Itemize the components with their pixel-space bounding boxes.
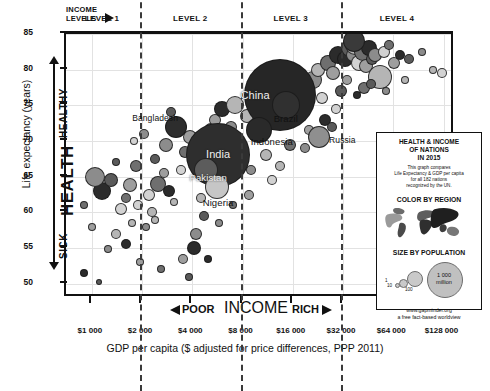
income-level-divider	[140, 0, 142, 391]
legend-bubble-1	[395, 283, 400, 288]
data-bubble	[300, 143, 310, 153]
country-label-china: China	[240, 89, 269, 101]
country-label-nigeria: Nigeria	[203, 197, 234, 208]
legend-color-heading: COLOR BY REGION	[377, 196, 481, 203]
data-bubble	[104, 245, 112, 253]
gridline-vertical	[343, 34, 344, 294]
data-bubble	[170, 198, 178, 206]
data-bubble	[215, 219, 223, 227]
data-bubble	[112, 158, 120, 166]
data-bubble	[163, 185, 175, 197]
legend-size-label-1000-b: million	[431, 279, 457, 285]
data-bubble-russia	[308, 126, 330, 148]
chart-legend: HEALTH & INCOME OF NATIONS IN 2015 This …	[376, 132, 482, 310]
y-tick	[60, 102, 67, 104]
health-axis-bar	[53, 64, 55, 262]
income-levels-line1: INCOME	[66, 5, 97, 14]
legend-size-label-100: 100	[405, 287, 413, 292]
y-tick	[60, 174, 67, 176]
data-bubble	[395, 50, 405, 60]
data-bubble	[159, 138, 173, 152]
data-bubble	[85, 167, 105, 187]
healthy-label: HEALTHY	[58, 88, 69, 138]
country-label-bangladesh: Bangladesh	[132, 113, 178, 123]
poor-arrow-icon	[170, 305, 180, 315]
data-bubble	[128, 219, 136, 227]
legend-tagline: a free fact-based worldview	[377, 314, 481, 321]
data-bubble	[326, 66, 340, 80]
data-bubble	[123, 178, 137, 192]
legend-desc-4: recognized by the UN.	[377, 183, 481, 189]
legend-title-2: OF NATIONS	[377, 146, 481, 154]
data-bubble	[437, 68, 447, 78]
y-tick-label: 80	[7, 63, 33, 73]
y-tick-label: 50	[7, 277, 33, 287]
data-bubble	[267, 175, 277, 185]
gridline-vertical	[92, 34, 93, 294]
x-tick	[89, 296, 91, 303]
data-bubble	[176, 165, 186, 175]
y-tick-label: 55	[7, 241, 33, 251]
income-level-label: LEVEL 4	[362, 14, 432, 23]
data-bubble	[142, 223, 150, 231]
data-bubble	[111, 229, 121, 239]
rich-label: RICH	[292, 303, 319, 315]
income-level-divider	[241, 0, 243, 391]
country-label-india: India	[206, 148, 230, 160]
x-tick	[189, 296, 191, 303]
data-bubble	[157, 265, 165, 273]
data-bubble	[366, 79, 376, 89]
data-bubble	[316, 92, 328, 104]
legend-title-3: IN 2015	[377, 154, 481, 162]
data-bubble	[115, 203, 127, 215]
data-bubble	[204, 255, 212, 263]
country-label-pakistan: Pakistan	[190, 172, 227, 183]
data-bubble	[190, 228, 202, 240]
data-bubble	[404, 54, 414, 64]
country-label-brazil: Brazil	[274, 113, 298, 124]
legend-size-heading: SIZE BY POPULATION	[377, 249, 481, 256]
y-tick-label: 75	[7, 98, 33, 108]
data-bubble	[418, 48, 426, 56]
income-level-divider	[341, 0, 343, 391]
data-bubble-japan	[343, 32, 365, 52]
x-axis-title: GDP per capita ($ adjusted for price dif…	[0, 342, 490, 354]
y-tick-label: 85	[7, 27, 33, 37]
data-bubble	[88, 223, 96, 231]
y-tick-label: 60	[7, 205, 33, 215]
legend-size-scale: 1 10 100 1 000 million	[377, 259, 481, 305]
x-tick	[290, 296, 292, 303]
country-label-russia: Russia	[329, 135, 356, 145]
sick-arrow-icon	[49, 262, 59, 270]
income-level-label: LEVEL 2	[155, 14, 225, 23]
legend-size-label-1000-a: 1 000	[431, 272, 457, 278]
y-tick-label: 65	[7, 170, 33, 180]
gridline-horizontal	[66, 34, 451, 35]
data-bubble	[384, 40, 394, 50]
data-bubble	[342, 75, 352, 85]
y-tick	[60, 138, 67, 140]
data-bubble	[327, 122, 337, 132]
legend-url[interactable]: www.gapminder.org	[377, 307, 481, 314]
income-label: INCOME	[224, 299, 288, 317]
data-bubble	[151, 216, 159, 224]
data-bubble	[121, 193, 131, 203]
data-bubble	[80, 269, 88, 277]
x-tick-label: $128 000	[412, 326, 472, 335]
rich-arrow-icon	[322, 305, 332, 315]
legend-size-label-10: 10	[387, 283, 392, 288]
data-bubble	[187, 241, 201, 255]
data-bubble	[185, 273, 193, 281]
data-bubble	[244, 190, 254, 200]
data-bubble	[260, 149, 272, 161]
y-tick-label: 70	[7, 134, 33, 144]
legend-bubble-100	[407, 271, 423, 287]
data-bubble	[331, 104, 341, 114]
data-bubble	[159, 168, 169, 178]
poor-label: POOR	[182, 303, 214, 315]
data-bubble	[80, 201, 88, 209]
data-bubble	[130, 137, 138, 145]
data-bubble	[401, 76, 409, 84]
data-bubble	[150, 154, 160, 164]
